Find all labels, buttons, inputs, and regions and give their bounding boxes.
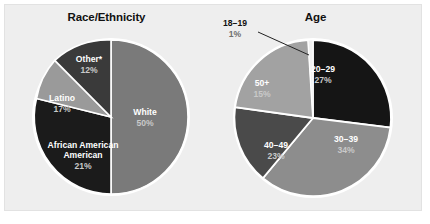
pie-value-40-49: 23%	[267, 151, 285, 161]
chart-race-ethnicity: Race/Ethnicity White 50% African America…	[4, 0, 209, 224]
chart-age: Age 20–29 27% 30–39 34% 40–49	[209, 0, 422, 224]
pie-label-18-19: 18–19	[223, 18, 247, 28]
pie-label-30-39: 30–39	[334, 134, 358, 144]
pie-label-african-american-line2: American	[63, 150, 102, 160]
pie-value-white: 50%	[136, 118, 154, 128]
pie-age: 20–29 27% 30–39 34% 40–49 23% 50+ 15% 18…	[209, 0, 422, 224]
pie-value-50-plus: 15%	[253, 89, 271, 99]
pie-value-other: 12%	[80, 65, 98, 75]
pie-race-ethnicity: White 50% African American American 21% …	[4, 0, 209, 224]
pie-value-18-19: 1%	[229, 29, 242, 39]
pie-label-latino: Latino	[49, 93, 75, 103]
pie-value-20-29: 27%	[314, 75, 332, 85]
pie-label-white: White	[133, 107, 157, 117]
pie-charts-figure: Race/Ethnicity White 50% African America…	[0, 0, 430, 224]
pie-label-20-29: 20–29	[311, 64, 335, 74]
pie-value-30-39: 34%	[337, 145, 355, 155]
pie-label-african-american-line1: African American	[48, 140, 119, 150]
pie-label-other: Other*	[76, 54, 103, 64]
pie-label-50-plus: 50+	[255, 78, 270, 88]
pie-value-latino: 17%	[53, 104, 71, 114]
pie-label-40-49: 40–49	[264, 140, 288, 150]
pie-value-african-american: 21%	[74, 161, 92, 171]
